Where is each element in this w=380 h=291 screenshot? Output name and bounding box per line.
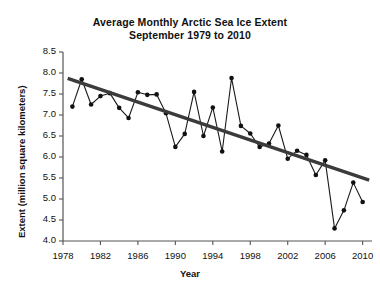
x-axis-tick-label: 2010: [346, 250, 380, 261]
data-point: [145, 93, 150, 98]
data-point: [173, 145, 178, 150]
data-point: [351, 180, 356, 185]
y-axis-tick-label: 4.0: [30, 234, 56, 245]
data-point: [220, 149, 225, 154]
series-polyline: [72, 78, 362, 228]
data-point: [182, 132, 187, 137]
chart-container: Average Monthly Arctic Sea Ice Extent Se…: [0, 0, 380, 291]
x-axis-ticks: [63, 241, 363, 245]
x-axis-tick-label: 1978: [46, 250, 80, 261]
y-axis-tick-label: 5.0: [30, 192, 56, 203]
y-axis-tick-label: 4.5: [30, 213, 56, 224]
y-axis-tick-label: 5.5: [30, 171, 56, 182]
axes: [59, 52, 372, 245]
x-axis-tick-label: 2006: [308, 250, 342, 261]
y-axis-tick-label: 7.0: [30, 108, 56, 119]
data-point: [70, 104, 75, 109]
data-point: [295, 148, 300, 153]
data-point: [154, 92, 159, 97]
x-axis-tick-label: 2002: [271, 250, 305, 261]
x-axis-tick-label: 1986: [121, 250, 155, 261]
y-axis-tick-label: 8.5: [30, 45, 56, 56]
x-axis-tick-label: 1982: [83, 250, 117, 261]
data-point: [98, 94, 103, 99]
x-axis-tick-label: 1994: [196, 250, 230, 261]
data-point: [192, 90, 197, 95]
x-axis-tick-label: 1990: [158, 250, 192, 261]
data-point: [314, 173, 319, 178]
data-point: [248, 131, 253, 136]
data-point: [342, 208, 347, 213]
data-point: [276, 123, 281, 128]
data-point: [304, 153, 309, 158]
data-point: [285, 156, 290, 161]
data-point: [229, 76, 234, 81]
y-axis-tick-label: 6.0: [30, 150, 56, 161]
plot-area: [0, 0, 380, 291]
data-point: [126, 116, 131, 121]
series-markers: [70, 76, 365, 231]
y-axis-tick-label: 7.5: [30, 87, 56, 98]
data-point: [211, 105, 216, 110]
data-point: [332, 226, 337, 231]
data-point: [323, 158, 328, 163]
x-axis-tick-label: 1998: [233, 250, 267, 261]
data-point: [117, 106, 122, 111]
y-axis-tick-label: 8.0: [30, 66, 56, 77]
data-point: [360, 200, 365, 205]
trend-line: [68, 78, 370, 180]
data-point: [239, 124, 244, 129]
data-point: [89, 102, 94, 107]
y-axis-tick-label: 6.5: [30, 129, 56, 140]
data-point: [201, 134, 206, 139]
data-point: [136, 90, 141, 95]
